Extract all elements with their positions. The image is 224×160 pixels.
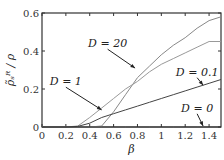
x-tick-label: 0.4 bbox=[82, 130, 98, 141]
annotation-label: D = 20 bbox=[87, 37, 127, 50]
y-tick-label: 0.6 bbox=[23, 8, 39, 19]
x-tick-label: 0.8 bbox=[130, 130, 146, 141]
y-tick-label: 0 bbox=[33, 122, 39, 133]
annotation-label: D = 1 bbox=[49, 75, 82, 88]
annotation-arrow-icon bbox=[108, 49, 135, 68]
x-tick-label: 1.4 bbox=[201, 130, 217, 141]
annotation-label: D = 0.1 bbox=[175, 66, 219, 79]
x-axis-label: β bbox=[127, 143, 134, 156]
x-tick-label: 1.2 bbox=[177, 130, 193, 141]
x-tick-label: 1 bbox=[158, 130, 164, 141]
y-tick-label: 0.2 bbox=[23, 84, 39, 95]
arrowhead-icon bbox=[130, 64, 135, 68]
annotation-label: D = 0 bbox=[180, 102, 213, 115]
x-tick-label: 0.2 bbox=[58, 130, 74, 141]
x-tick-label: 0 bbox=[39, 130, 45, 141]
x-tick-label: 0.6 bbox=[106, 130, 122, 141]
arrowhead-icon bbox=[97, 106, 102, 110]
y-axis-label: ρ̃ₛᴿ / ρ bbox=[4, 53, 17, 87]
annotation-arrow-icon bbox=[66, 87, 102, 110]
y-tick-label: 0.4 bbox=[23, 46, 39, 57]
chart: 00.20.40.60.811.21.400.20.40.6βρ̃ₛᴿ / ρD… bbox=[0, 0, 224, 160]
